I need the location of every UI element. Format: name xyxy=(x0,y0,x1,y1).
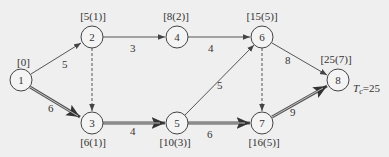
duration-2-4: 3 xyxy=(130,42,136,54)
svg-text:4: 4 xyxy=(174,31,180,43)
time-label-node-3: [6(1)] xyxy=(80,136,106,149)
network-diagram: 5 6 3 4 4 5 6 8 9 1 2 3 4 5 6 7 8 [0] [5… xyxy=(0,0,389,157)
time-label-node-5: [10(3)] xyxy=(159,136,190,149)
time-label-node-1: [0] xyxy=(17,56,30,68)
svg-text:2: 2 xyxy=(89,31,95,43)
duration-5-7: 6 xyxy=(207,128,213,140)
duration-5-6: 5 xyxy=(217,79,223,91)
node-7: 7 xyxy=(251,112,273,134)
node-8: 8 xyxy=(327,69,349,91)
node-3: 3 xyxy=(81,112,103,134)
edge-1-2 xyxy=(31,43,81,74)
svg-text:8: 8 xyxy=(335,74,341,86)
svg-text:6: 6 xyxy=(259,31,265,43)
duration-1-2: 5 xyxy=(62,58,68,70)
node-1: 1 xyxy=(10,69,32,91)
node-2: 2 xyxy=(81,26,103,48)
duration-1-3: 6 xyxy=(48,102,54,114)
duration-4-6: 4 xyxy=(208,42,214,54)
node-4: 4 xyxy=(166,26,188,48)
edge-1-3-critical xyxy=(30,87,80,117)
svg-text:3: 3 xyxy=(89,117,95,129)
node-6: 6 xyxy=(251,26,273,48)
time-label-node-6: [15(5)] xyxy=(246,10,277,23)
time-label-node-4: [8(2)] xyxy=(163,10,189,23)
total-time-label: Tc=25 xyxy=(353,82,380,96)
edge-6-8 xyxy=(272,43,327,75)
time-label-node-7: [16(5)] xyxy=(248,136,279,149)
duration-7-8: 9 xyxy=(290,106,296,118)
svg-text:7: 7 xyxy=(259,117,265,129)
node-5: 5 xyxy=(166,112,188,134)
svg-text:5: 5 xyxy=(174,117,180,129)
time-label-node-2: [5(1)] xyxy=(80,10,106,23)
duration-3-5: 4 xyxy=(130,125,136,137)
svg-text:1: 1 xyxy=(18,74,24,86)
edge-7-8-critical xyxy=(272,86,327,117)
time-label-node-8: [25(7)] xyxy=(320,53,351,66)
duration-6-8: 8 xyxy=(285,54,291,66)
